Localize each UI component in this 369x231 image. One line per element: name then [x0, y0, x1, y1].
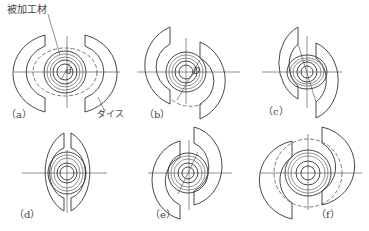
panel-b-label: （b）: [144, 106, 170, 121]
outer-diameter-symbol: D: [193, 66, 200, 76]
panel-c-label: （c）: [263, 103, 289, 118]
panel-f-label: （f）: [316, 206, 340, 221]
panel-a-label: （a）: [6, 106, 32, 121]
die-label: ダイス: [97, 107, 124, 120]
workpiece-label: 被加工材: [7, 1, 47, 16]
panel-a-drawing: [13, 14, 120, 112]
panel-d-drawing: [22, 133, 107, 213]
diagram-canvas: .ln { fill:none; stroke:#333; stroke-wid…: [0, 0, 369, 231]
inner-diameter-symbol: d: [66, 66, 72, 76]
panel-f-drawing: [259, 127, 362, 219]
panel-e-label: （e）: [150, 206, 176, 221]
panel-d-label: （d）: [14, 206, 40, 221]
